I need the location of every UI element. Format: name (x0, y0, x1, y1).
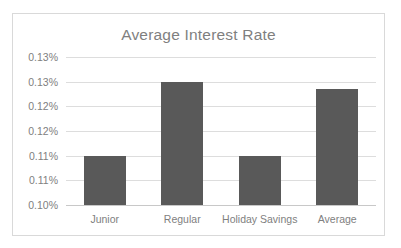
y-axis-tick-label: 0.13% (28, 76, 58, 88)
y-axis-tick-label: 0.10% (28, 199, 58, 211)
y-axis-tick-label: 0.12% (28, 125, 58, 137)
x-axis: JuniorRegularHoliday SavingsAverage (66, 209, 376, 231)
bar[interactable] (84, 156, 126, 205)
x-axis-tick-label: Regular (144, 209, 222, 231)
chart-title: Average Interest Rate (13, 26, 384, 44)
x-axis-line (66, 205, 376, 206)
y-axis-tick-label: 0.11% (29, 174, 58, 186)
x-axis-tick-label: Holiday Savings (221, 209, 299, 231)
y-axis-tick-label: 0.13% (28, 51, 58, 63)
bar[interactable] (239, 156, 281, 205)
y-axis: 0.13%0.13%0.12%0.12%0.11%0.11%0.10% (13, 57, 62, 205)
y-axis-tick-label: 0.12% (28, 100, 58, 112)
bar[interactable] (161, 82, 203, 205)
plot-area (66, 57, 376, 205)
bar[interactable] (316, 89, 358, 205)
bar-series (66, 57, 376, 205)
y-axis-tick-label: 0.11% (29, 150, 58, 162)
chart-container: Average Interest Rate 0.13%0.13%0.12%0.1… (12, 13, 385, 236)
x-axis-tick-label: Junior (66, 209, 144, 231)
x-axis-tick-label: Average (299, 209, 377, 231)
